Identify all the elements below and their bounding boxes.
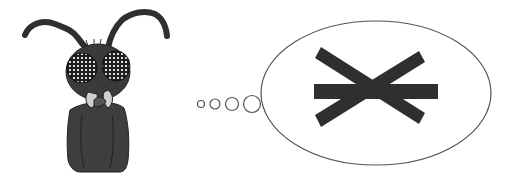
left-antenna: [25, 22, 88, 50]
left-eye: [67, 53, 97, 83]
bubble-large: [226, 98, 239, 111]
right-antenna: [108, 12, 167, 48]
right-eye: [102, 51, 130, 81]
bubble-medium: [210, 99, 220, 109]
fly-illustration: [25, 12, 167, 172]
illustration: [0, 0, 507, 177]
fly-body: [67, 102, 129, 172]
bubble-small: [198, 101, 205, 108]
bubble-xlarge: [244, 96, 261, 113]
thought-bubbles: [198, 96, 261, 113]
